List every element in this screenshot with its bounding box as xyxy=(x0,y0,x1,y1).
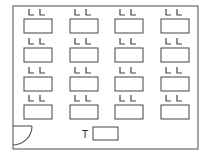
chair-icon xyxy=(75,67,80,73)
door xyxy=(13,126,32,145)
chair-icon xyxy=(131,9,136,15)
door-swing-arc xyxy=(13,126,32,145)
student-desk-group xyxy=(24,38,52,62)
student-desks xyxy=(24,9,189,119)
chair-icon xyxy=(131,38,136,44)
student-desk xyxy=(70,19,98,33)
student-desk-group xyxy=(70,9,98,33)
chair-icon xyxy=(86,38,91,44)
chair-icon xyxy=(177,95,182,101)
student-desk-group xyxy=(161,95,189,119)
student-desk xyxy=(70,48,98,62)
student-desk xyxy=(115,77,143,91)
chair-icon xyxy=(86,67,91,73)
student-desk-group xyxy=(70,38,98,62)
student-desk xyxy=(161,77,189,91)
chair-icon xyxy=(166,9,171,15)
chair-icon xyxy=(120,67,125,73)
chair-icon xyxy=(177,9,182,15)
chair-icon xyxy=(40,95,45,101)
student-desk xyxy=(24,105,52,119)
chair-icon xyxy=(86,9,91,15)
chair-icon xyxy=(131,95,136,101)
student-desk xyxy=(115,19,143,33)
student-desk xyxy=(161,105,189,119)
chair-icon xyxy=(40,9,45,15)
student-desk-group xyxy=(161,38,189,62)
student-desk-group xyxy=(115,9,143,33)
chair-icon xyxy=(120,9,125,15)
student-desk-group xyxy=(115,95,143,119)
student-desk-group xyxy=(70,67,98,91)
student-desk xyxy=(24,19,52,33)
student-desk xyxy=(115,105,143,119)
chair-icon xyxy=(75,95,80,101)
chair-icon xyxy=(177,38,182,44)
student-desk-group xyxy=(24,67,52,91)
student-desk-group xyxy=(115,67,143,91)
chair-icon xyxy=(166,67,171,73)
student-desk xyxy=(115,48,143,62)
chair-icon xyxy=(120,38,125,44)
chair-icon xyxy=(177,67,182,73)
teacher-desk-group: T xyxy=(81,127,118,140)
student-desk xyxy=(70,77,98,91)
chair-icon xyxy=(75,38,80,44)
chair-icon xyxy=(75,9,80,15)
student-desk-group xyxy=(24,9,52,33)
chair-icon xyxy=(120,95,125,101)
teacher-label: T xyxy=(81,129,89,140)
student-desk-group xyxy=(24,95,52,119)
chair-icon xyxy=(29,9,34,15)
chair-icon xyxy=(86,95,91,101)
teacher-desk xyxy=(93,127,118,140)
student-desk-group xyxy=(161,67,189,91)
chair-icon xyxy=(166,95,171,101)
student-desk xyxy=(161,48,189,62)
student-desk xyxy=(24,48,52,62)
student-desk-group xyxy=(115,38,143,62)
classroom-floor-plan: T xyxy=(0,0,210,164)
student-desk xyxy=(24,77,52,91)
student-desk xyxy=(161,19,189,33)
student-desk-group xyxy=(161,9,189,33)
student-desk-group xyxy=(70,95,98,119)
chair-icon xyxy=(29,95,34,101)
chair-icon xyxy=(131,67,136,73)
chair-icon xyxy=(29,67,34,73)
student-desk xyxy=(70,105,98,119)
chair-icon xyxy=(166,38,171,44)
chair-icon xyxy=(40,67,45,73)
chair-icon xyxy=(29,38,34,44)
chair-icon xyxy=(40,38,45,44)
